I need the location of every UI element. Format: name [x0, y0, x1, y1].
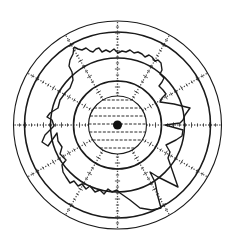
spoke-tick	[96, 157, 101, 160]
spoke-tick	[83, 142, 86, 147]
spoke-tick	[134, 91, 139, 94]
spoke-tick	[149, 104, 152, 109]
polar-diagram	[0, 0, 237, 245]
spoke-tick	[149, 142, 152, 147]
spoke-tick	[96, 91, 101, 94]
spoke-tick	[134, 157, 139, 160]
center-dot	[113, 121, 122, 130]
spoke-tick	[83, 104, 86, 109]
